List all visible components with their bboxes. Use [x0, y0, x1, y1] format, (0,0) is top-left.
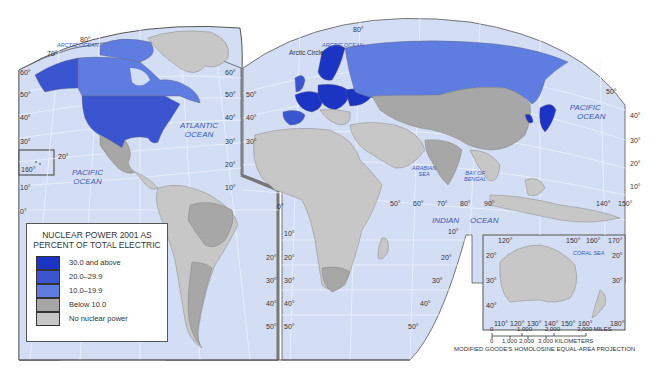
lon-label: 60° [413, 200, 424, 207]
lat-label: 40° [20, 114, 31, 121]
lat-label: 20° [225, 161, 236, 168]
lat-label: 50° [246, 91, 257, 98]
aus-lat-label: 40° [486, 302, 497, 309]
lat-label: 20° [630, 160, 641, 167]
legend-title-line1: NUCLEAR POWER 2001 AS [42, 230, 152, 240]
scale-miles-3000: 3,000 MILES [577, 326, 612, 332]
arabian-line1: ARABIAN [412, 165, 436, 171]
lat-label: 50° [606, 88, 617, 95]
lat-label: 20° [441, 254, 452, 261]
legend-swatch-20-29 [36, 270, 60, 284]
lat-label: 40° [246, 114, 257, 121]
scale-km-0: 0 [490, 338, 493, 344]
aus-lon-label: 150° [566, 237, 580, 244]
lat-label: 10° [225, 184, 236, 191]
lat-label: 30° [225, 138, 236, 145]
lat-label: 30° [20, 138, 31, 145]
legend: NUCLEAR POWER 2001 AS PERCENT OF TOTAL E… [26, 223, 168, 342]
atlantic-ocean-label: ATLANTICOCEAN [180, 121, 218, 139]
lon-label: 150° [618, 200, 632, 207]
lat-80-west: 80° [80, 36, 91, 43]
legend-swatch-10-19 [36, 284, 60, 298]
lat-label: 20° [266, 254, 277, 261]
aus-lon-label: 160° [586, 237, 600, 244]
lat-label: 50° [284, 323, 295, 330]
lon-label: 50° [390, 200, 401, 207]
lat-label: 30° [432, 277, 443, 284]
legend-label: 30.0 and above [69, 258, 121, 267]
aus-lat-label: 30° [486, 277, 497, 284]
hawaii-lon-label: 160° [21, 166, 35, 173]
lat-label: 40° [266, 300, 277, 307]
lon-label: 90° [484, 200, 495, 207]
scale-km-2000: 2,000 [519, 338, 534, 344]
lat-label: 50° [408, 323, 419, 330]
legend-label: 10.0–19.9 [69, 286, 102, 295]
lat-label: 40° [284, 300, 295, 307]
legend-swatch-none [36, 312, 60, 326]
lat-label: 40° [420, 300, 431, 307]
legend-title-line2: PERCENT OF TOTAL ELECTRIC [33, 240, 161, 250]
projection-label: MODIFIED GOODE'S HOMOLOSINE EQUAL-AREA P… [454, 346, 635, 352]
scale-miles-0: 0 [490, 326, 493, 332]
legend-swatch-below-10 [36, 298, 60, 312]
legend-title: NUCLEAR POWER 2001 AS PERCENT OF TOTAL E… [27, 230, 167, 250]
bay-of-bengal-label: BAY OFBENGAL [464, 170, 486, 183]
legend-item: 10.0–19.9 [36, 283, 102, 298]
lat-label: 30° [284, 277, 295, 284]
coral-sea-label: CORAL SEA [573, 250, 604, 256]
legend-item: 20.0–29.9 [36, 269, 102, 284]
pacific-west-line1: PACIFIC [72, 168, 103, 177]
lat-label: 10° [284, 230, 295, 237]
aus-lat-label: 30° [612, 277, 623, 284]
scale-km-3000: 3,000 KILOMETERS [538, 338, 593, 344]
legend-label: No nuclear power [69, 314, 128, 323]
lat-label: 50° [20, 91, 31, 98]
pacific-ocean-west-label: PACIFICOCEAN [72, 168, 103, 186]
arabian-line2: SEA [419, 171, 430, 177]
lat-label: 30° [266, 277, 277, 284]
lat-label: 60° [20, 69, 31, 76]
legend-item: 30.0 and above [36, 255, 121, 270]
arctic-circle-label: Arctic Circle [289, 49, 324, 56]
lon-label: 70° [437, 200, 448, 207]
aus-lon-label: 180° [610, 320, 624, 327]
aus-lon-label: 150° [561, 320, 575, 327]
lat-label: 50° [266, 323, 277, 330]
aus-lon-label: 120° [498, 237, 512, 244]
pacific-ocean-east-label: PACIFICOCEAN [565, 103, 605, 121]
pacific-east-line1: PACIFIC [570, 103, 601, 112]
legend-swatch-30-plus [36, 256, 60, 270]
indian-ocean-label-2: OCEAN [470, 216, 498, 225]
pacific-west-line2: OCEAN [73, 177, 101, 186]
atlantic-label-line2: OCEAN [185, 130, 213, 139]
arabian-sea-label: ARABIANSEA [412, 165, 436, 178]
scale-miles-1000: 1,000 [517, 326, 532, 332]
aus-lon-label: 110° [494, 320, 508, 327]
lat-label: 40° [630, 112, 641, 119]
lat-label: 40° [225, 114, 236, 121]
lat-label: 10° [20, 184, 31, 191]
pacific-east-line2: OCEAN [577, 112, 605, 121]
lat-label: 10° [630, 183, 641, 190]
legend-label: 20.0–29.9 [69, 272, 102, 281]
aus-lat-label: 20° [486, 252, 497, 259]
lat-label: 30° [630, 137, 641, 144]
lat-label: 30° [246, 138, 257, 145]
lat-80-east: 80° [353, 26, 364, 33]
indian-ocean-label: INDIAN [432, 216, 459, 225]
lat-label: 60° [225, 69, 236, 76]
scale-km-1000: 1,000 [502, 338, 517, 344]
atlantic-label-line1: ATLANTIC [180, 121, 218, 130]
scale-miles-2000: 2,000 [545, 326, 560, 332]
lat-70-west: 70° [47, 50, 58, 57]
equator-africa-label: 0° [277, 203, 284, 210]
lat-label: 50° [225, 91, 236, 98]
lat-label: 10° [448, 228, 459, 235]
hawaii-lat-label: 20° [58, 153, 69, 160]
aus-lat-label: 20° [612, 252, 623, 259]
bengal-line1: BAY OF [465, 170, 485, 176]
legend-item: Below 10.0 [36, 297, 106, 312]
lat-label: 20° [284, 254, 295, 261]
arctic-ocean-east-label: ARCTIC OCEAN [322, 42, 364, 48]
